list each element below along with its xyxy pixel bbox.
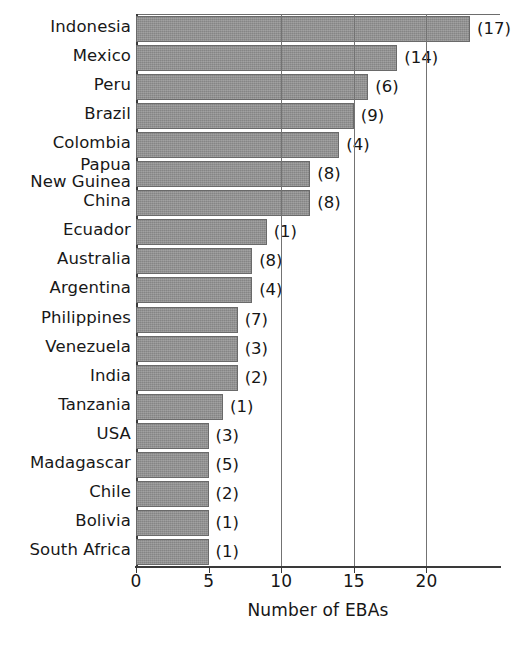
bar bbox=[136, 16, 470, 42]
category-label: Venezuela bbox=[0, 339, 131, 356]
bar-row: (4) bbox=[136, 277, 500, 303]
bar-row: (3) bbox=[136, 336, 500, 362]
bar-value-label: (1) bbox=[216, 541, 239, 563]
category-label: Bolivia bbox=[0, 513, 131, 530]
category-label: Indonesia bbox=[0, 19, 131, 36]
category-label: Chile bbox=[0, 484, 131, 501]
bar-row: (4) bbox=[136, 132, 500, 158]
bar-value-label: (14) bbox=[404, 47, 438, 69]
bar bbox=[136, 103, 354, 129]
gridline-20 bbox=[426, 14, 427, 567]
bar-row: (7) bbox=[136, 307, 500, 333]
bar-value-label: (9) bbox=[361, 105, 384, 127]
plot-area: (17)(14)(6)(9)(4)(8)(8)(1)(8)(4)(7)(3)(2… bbox=[136, 14, 500, 567]
bar-row: (1) bbox=[136, 394, 500, 420]
bar-value-label: (1) bbox=[230, 396, 253, 418]
category-label: Colombia bbox=[0, 135, 131, 152]
bar-value-label: (4) bbox=[259, 279, 282, 301]
category-label: Madagascar bbox=[0, 455, 131, 472]
bar-value-label: (5) bbox=[216, 454, 239, 476]
gridline-10 bbox=[281, 14, 282, 567]
category-label: USA bbox=[0, 426, 131, 443]
bar-chart: IndonesiaMexicoPeruBrazilColombiaPapua N… bbox=[0, 0, 520, 648]
bar bbox=[136, 510, 209, 536]
bar-row: (14) bbox=[136, 45, 500, 71]
bar-value-label: (7) bbox=[245, 309, 268, 331]
bar-row: (8) bbox=[136, 248, 500, 274]
bar bbox=[136, 423, 209, 449]
bar bbox=[136, 248, 252, 274]
category-label: Australia bbox=[0, 251, 131, 268]
bar-value-label: (1) bbox=[216, 512, 239, 534]
category-label: Argentina bbox=[0, 280, 131, 297]
bar-row: (1) bbox=[136, 510, 500, 536]
category-axis-labels: IndonesiaMexicoPeruBrazilColombiaPapua N… bbox=[0, 14, 131, 567]
category-label: Peru bbox=[0, 77, 131, 94]
bar-row: (3) bbox=[136, 423, 500, 449]
category-label: Mexico bbox=[0, 48, 131, 65]
bar-value-label: (8) bbox=[259, 250, 282, 272]
x-axis-line bbox=[135, 566, 501, 568]
bar-value-label: (17) bbox=[477, 18, 511, 40]
x-tick-label-10: 10 bbox=[270, 570, 292, 592]
bar bbox=[136, 161, 310, 187]
bar-row: (17) bbox=[136, 16, 500, 42]
category-label: Tanzania bbox=[0, 397, 131, 414]
bar-row: (1) bbox=[136, 539, 500, 565]
bar-value-label: (4) bbox=[346, 134, 369, 156]
bar-row: (2) bbox=[136, 481, 500, 507]
category-label: Ecuador bbox=[0, 222, 131, 239]
bar bbox=[136, 190, 310, 216]
category-label: Philippines bbox=[0, 310, 131, 327]
bar-value-label: (2) bbox=[245, 367, 268, 389]
bar bbox=[136, 336, 238, 362]
x-tick-label-20: 20 bbox=[416, 570, 438, 592]
bar-row: (9) bbox=[136, 103, 500, 129]
bar-row: (8) bbox=[136, 161, 500, 187]
bar bbox=[136, 481, 209, 507]
bar-row: (1) bbox=[136, 219, 500, 245]
bar-value-label: (3) bbox=[245, 338, 268, 360]
bar-row: (8) bbox=[136, 190, 500, 216]
category-label: India bbox=[0, 368, 131, 385]
category-label: Papua New Guinea bbox=[0, 157, 131, 191]
bar-series: (17)(14)(6)(9)(4)(8)(8)(1)(8)(4)(7)(3)(2… bbox=[136, 14, 500, 567]
bar-row: (6) bbox=[136, 74, 500, 100]
bar bbox=[136, 45, 397, 71]
bar-value-label: (2) bbox=[216, 483, 239, 505]
x-tick-label-0: 0 bbox=[131, 570, 142, 592]
bar-row: (2) bbox=[136, 365, 500, 391]
bar bbox=[136, 394, 223, 420]
gridline-15 bbox=[354, 14, 355, 567]
bar bbox=[136, 277, 252, 303]
x-tick-label-15: 15 bbox=[343, 570, 365, 592]
bar-row: (5) bbox=[136, 452, 500, 478]
bar-value-label: (8) bbox=[317, 192, 340, 214]
bar-value-label: (3) bbox=[216, 425, 239, 447]
bar-value-label: (6) bbox=[375, 76, 398, 98]
bar bbox=[136, 539, 209, 565]
bar bbox=[136, 452, 209, 478]
bar bbox=[136, 219, 267, 245]
bar-value-label: (1) bbox=[274, 221, 297, 243]
category-label: Brazil bbox=[0, 106, 131, 123]
bar bbox=[136, 365, 238, 391]
category-label: South Africa bbox=[0, 542, 131, 559]
x-tick-label-5: 5 bbox=[203, 570, 214, 592]
x-axis-title: Number of EBAs bbox=[136, 600, 500, 620]
bar-value-label: (8) bbox=[317, 163, 340, 185]
category-label: China bbox=[0, 193, 131, 210]
bar bbox=[136, 132, 339, 158]
bar bbox=[136, 74, 368, 100]
bar bbox=[136, 307, 238, 333]
x-axis-tick-labels: 05101520 bbox=[136, 570, 516, 596]
